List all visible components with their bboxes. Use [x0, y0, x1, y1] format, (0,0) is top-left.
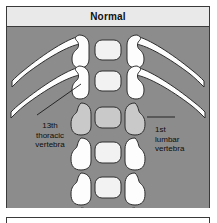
pedicle-right-4	[125, 138, 145, 170]
rib-upper-right	[136, 36, 204, 87]
next-panel-top-border	[6, 217, 210, 223]
vertebral-body-1	[95, 40, 121, 60]
label-line-3: vertebra	[21, 140, 79, 150]
pedicle-left-5	[71, 173, 91, 205]
pedicle-right-3	[125, 103, 145, 135]
vertebral-body-5	[95, 177, 121, 198]
panel-header: Normal	[7, 7, 209, 27]
label-1st-lumbar-vertebra: 1st lumbar vertebra	[155, 125, 209, 154]
label-line-3: vertebra	[155, 144, 209, 154]
label-line-2: lumbar	[155, 135, 209, 145]
panel-title: Normal	[90, 12, 126, 22]
label-13th-thoracic-vertebra: 13th thoracic vertebra	[21, 121, 79, 150]
vertebral-body-2	[95, 71, 121, 91]
vertebral-level-2	[72, 66, 144, 99]
pedicle-right-5	[125, 173, 145, 205]
figure-root: Normal	[0, 0, 217, 223]
vertebral-body-4	[95, 142, 121, 163]
vertebral-body-3	[95, 107, 121, 128]
vertebral-level-4	[71, 138, 145, 170]
label-line-1: 13th	[21, 121, 79, 131]
vertebral-level-3	[71, 103, 145, 135]
illustration-panel: Normal	[6, 6, 210, 208]
panel-body: 13th thoracic vertebra 1st lumbar verteb…	[7, 27, 209, 208]
vertebral-level-5	[71, 173, 145, 205]
spine-illustration	[7, 27, 209, 208]
vertebral-level-1	[72, 35, 144, 68]
label-line-2: thoracic	[21, 131, 79, 141]
label-line-1: 1st	[155, 125, 209, 135]
rib-upper-left	[12, 36, 80, 87]
